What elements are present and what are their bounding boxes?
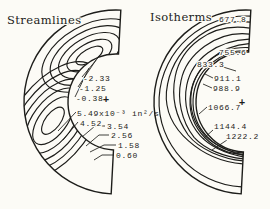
contour-label: 988.9: [213, 84, 241, 93]
contour-label: 3.54: [107, 122, 129, 131]
label-leader-line: [86, 135, 109, 146]
streamlines-title: Streamlines: [7, 13, 81, 27]
contour-label: 1.58: [118, 141, 140, 150]
contour-label: -2.33: [83, 74, 111, 83]
contour-line: [37, 103, 68, 138]
center-marker: +: [239, 96, 245, 107]
contour-label: 5.49x10⁻³ in²/s: [77, 109, 160, 118]
contour-label: 1066.7: [208, 103, 241, 112]
contour-label: -0.38: [76, 94, 104, 103]
contour-label: 911.1: [214, 74, 242, 83]
contour-label: 0.60: [116, 151, 138, 160]
contour-label: 1222.2: [226, 132, 259, 141]
isotherms-geometry: [149, 5, 251, 194]
scanned-contour-figure: Streamlines -2.33 -1.25 -0.38 5.49x10⁻³ …: [0, 0, 270, 209]
label-leader-line: [199, 107, 207, 114]
isotherms-title: Isotherms: [150, 10, 212, 24]
label-leader-line: [94, 155, 114, 160]
contour-label: 755.6: [219, 48, 247, 57]
contour-line: [73, 42, 105, 68]
contour-label: -1.25: [79, 84, 107, 93]
label-leader-line: [203, 84, 212, 88]
contour-label: 2.56: [111, 131, 133, 140]
label-leader-line: [63, 122, 78, 140]
label-leader-line: [205, 74, 213, 78]
contour-label: 833.3: [197, 60, 225, 69]
contour-label: 1144.4: [214, 122, 247, 131]
isotherm-contours: [155, 12, 251, 187]
figure-canvas: Streamlines -2.33 -1.25 -0.38 5.49x10⁻³ …: [0, 0, 270, 209]
isotherms-panel: Isotherms 677.8 755.6 833.3 911.1 988.9 …: [149, 5, 259, 194]
contour-label: 677.8: [219, 15, 247, 24]
streamlines-panel: Streamlines -2.33 -1.25 -0.38 5.49x10⁻³ …: [0, 0, 160, 203]
center-marker: +: [103, 93, 109, 104]
lower-vortex-contours: [0, 44, 124, 198]
contour-label: 4.52: [80, 119, 102, 128]
